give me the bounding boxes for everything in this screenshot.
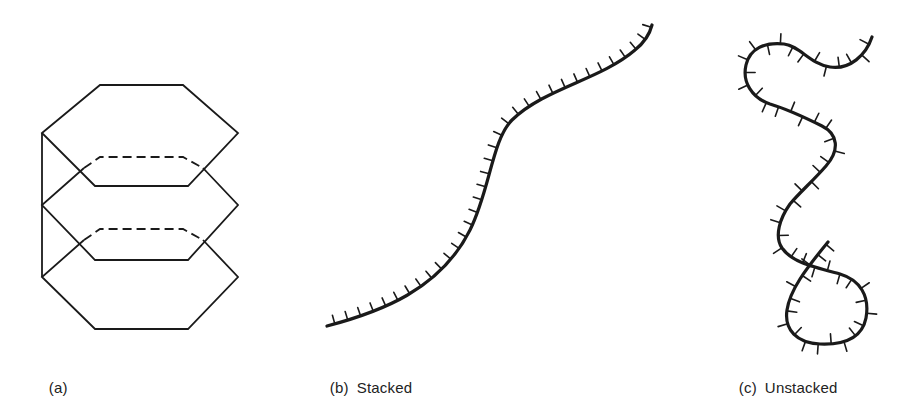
caption-c: (c)Unstacked [730, 362, 838, 396]
chain-tick [524, 99, 529, 107]
unstacked-chain-ticks [739, 34, 877, 354]
chain-tick [484, 158, 493, 160]
chain-tick [537, 92, 541, 100]
chain-tick [767, 45, 769, 55]
panel-b-stacked-chain [327, 25, 652, 326]
chain-tick [830, 334, 831, 344]
chain-tick [750, 42, 756, 50]
caption-c-tag: (c) [739, 379, 757, 396]
chain-tick [854, 322, 863, 326]
chain-tick [817, 344, 818, 354]
caption-a-tag: (a) [49, 379, 68, 396]
chain-tick [586, 69, 590, 77]
chain-tick [802, 275, 810, 281]
chain-tick [435, 263, 441, 269]
chain-tick [860, 40, 869, 45]
hexagon-bottom-front [42, 240, 238, 329]
chain-tick [382, 298, 386, 306]
chain-tick [798, 117, 802, 126]
chain-tick [778, 324, 788, 327]
chain-tick [856, 300, 866, 302]
chain-tick [458, 233, 466, 237]
stacked-chain-curve [327, 25, 652, 326]
chain-tick [815, 53, 820, 62]
chain-tick [739, 85, 748, 89]
chain-tick [598, 63, 602, 71]
chain-tick [814, 113, 818, 122]
chain-tick [609, 57, 613, 65]
chain-tick [630, 42, 636, 49]
chain-tick [464, 221, 472, 225]
chain-tick [821, 157, 829, 163]
chain-tick [574, 74, 578, 82]
chain-tick [795, 184, 802, 191]
figure-canvas [0, 0, 906, 398]
chain-tick [825, 138, 834, 142]
chain-tick [762, 103, 766, 112]
chain-tick [862, 55, 869, 62]
chain-tick [867, 313, 877, 314]
chain-tick [426, 271, 432, 278]
chain-tick [844, 342, 847, 352]
hexagon-top [42, 85, 238, 186]
unstacked-chain-curve [745, 37, 872, 344]
chain-tick [755, 88, 762, 95]
chain-tick [771, 220, 781, 223]
chain-tick [788, 47, 792, 56]
chain-tick [787, 311, 797, 312]
chain-tick [780, 34, 781, 44]
chain-tick [827, 261, 830, 271]
chain-tick [793, 200, 800, 207]
chain-tick [849, 328, 855, 336]
chain-tick [777, 206, 786, 211]
chain-tick [826, 120, 832, 128]
chain-tick [802, 341, 805, 350]
chain-tick [620, 50, 625, 57]
chain-tick [739, 56, 748, 60]
chain-tick [812, 267, 815, 277]
chain-tick [861, 283, 869, 289]
panel-c-unstacked-chain [739, 34, 877, 354]
chain-tick [794, 328, 801, 335]
chain-tick [416, 279, 421, 286]
chain-tick [811, 182, 818, 189]
chain-tick [798, 54, 804, 62]
chain-tick [838, 57, 839, 67]
hexagon-bottom-hidden-edge [84, 229, 203, 240]
chain-tick [774, 248, 782, 254]
chain-tick [775, 107, 778, 116]
chain-tick [813, 165, 820, 172]
chain-tick [643, 25, 652, 28]
chain-tick [394, 292, 398, 300]
chain-tick [846, 279, 852, 287]
chain-tick [561, 79, 565, 87]
caption-c-text: Unstacked [765, 379, 838, 396]
chain-tick [494, 131, 502, 135]
caption-b-text: Stacked [357, 379, 413, 396]
chain-tick [638, 34, 645, 39]
chain-tick [370, 303, 373, 311]
chain-tick [488, 145, 497, 148]
chain-tick [847, 54, 852, 63]
chain-tick [405, 286, 410, 294]
panel-a-stacked-hexagons [42, 85, 238, 329]
chain-tick [787, 282, 796, 287]
chain-tick [791, 102, 795, 111]
chain-tick [549, 85, 553, 93]
chain-tick [837, 274, 840, 284]
chain-tick [824, 66, 826, 76]
chain-tick [790, 298, 799, 301]
chain-tick [502, 118, 509, 124]
hexagon-middle-hidden-edge [84, 157, 203, 168]
caption-b-tag: (b) [330, 379, 349, 396]
chain-tick [513, 107, 519, 114]
chain-tick [452, 243, 459, 248]
chain-tick [826, 244, 834, 250]
caption-a: (a) [40, 362, 76, 396]
caption-b: (b)Stacked [321, 362, 412, 396]
chain-tick [835, 151, 845, 154]
chain-tick [444, 253, 451, 259]
chain-tick [818, 255, 826, 261]
chain-tick [481, 171, 490, 173]
chain-tick [791, 249, 797, 257]
